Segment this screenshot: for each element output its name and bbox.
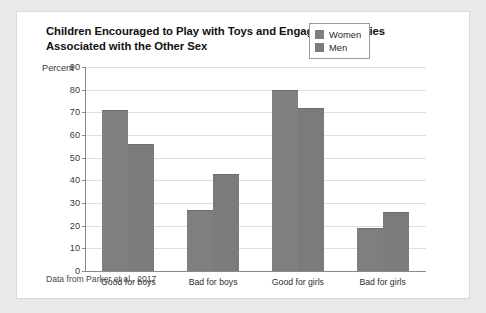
y-axis-tick: [82, 67, 85, 68]
y-axis-tick: [82, 135, 85, 136]
bar-men-good-for-boys: [128, 144, 154, 271]
legend-item-men: Men: [315, 41, 361, 54]
source-note: Data from Parker et al., 2017: [46, 274, 156, 284]
legend-label-men: Men: [329, 42, 347, 53]
gridline: [86, 135, 426, 136]
plot-area: 0102030405060708090 Good for boysBad for…: [85, 67, 426, 272]
bar-women-good-for-girls: [272, 90, 298, 271]
bar-women-bad-for-girls: [357, 228, 383, 271]
y-axis-tick-label: 60: [70, 130, 80, 140]
x-axis-tick-label: Bad for boys: [189, 277, 238, 287]
bar-women-bad-for-boys: [187, 210, 213, 271]
chart-card: Children Encouraged to Play with Toys an…: [16, 11, 470, 299]
y-axis-tick: [82, 90, 85, 91]
legend-item-women: Women: [315, 28, 361, 41]
y-axis-tick-label: 40: [70, 175, 80, 185]
y-axis-tick: [82, 226, 85, 227]
y-axis-tick: [82, 203, 85, 204]
legend: Women Men: [309, 23, 370, 59]
y-axis-tick-label: 50: [70, 153, 80, 163]
bar-men-bad-for-girls: [383, 212, 409, 271]
y-axis-tick-label: 70: [70, 107, 80, 117]
y-axis-tick-label: 20: [70, 221, 80, 231]
y-axis-line: [85, 67, 86, 272]
y-axis-tick-label: 10: [70, 243, 80, 253]
y-axis-tick: [82, 248, 85, 249]
x-axis-tick-label: Good for girls: [272, 277, 324, 287]
y-axis-tick: [82, 158, 85, 159]
legend-swatch-men-icon: [315, 43, 324, 52]
bar-women-good-for-boys: [102, 110, 128, 271]
legend-label-women: Women: [329, 29, 361, 40]
gridline: [86, 112, 426, 113]
x-axis-tick-label: Bad for girls: [359, 277, 405, 287]
gridline: [86, 67, 426, 68]
legend-swatch-women-icon: [315, 30, 324, 39]
bar-men-good-for-girls: [298, 108, 324, 271]
y-axis-tick-label: 90: [70, 62, 80, 72]
y-axis-tick: [82, 112, 85, 113]
y-axis-tick: [82, 271, 85, 272]
y-axis-tick-label: 30: [70, 198, 80, 208]
y-axis-tick: [82, 180, 85, 181]
y-axis-tick-label: 80: [70, 85, 80, 95]
gridline: [86, 271, 426, 272]
gridline: [86, 90, 426, 91]
bar-men-bad-for-boys: [213, 174, 239, 271]
